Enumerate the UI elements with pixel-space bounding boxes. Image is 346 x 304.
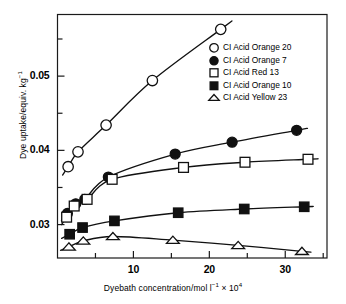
series-2: [62, 159, 318, 225]
series-4: [61, 236, 311, 252]
legend-item-label: CI Acid Orange 7: [221, 54, 287, 67]
series-3: [62, 206, 314, 238]
y-tick-label: 0.05: [6, 69, 50, 81]
legend-item: CI Acid Orange 10: [207, 79, 291, 92]
x-tick-label: 10: [118, 263, 148, 275]
open-circle-icon: [207, 41, 221, 54]
open-triangle-icon: [207, 91, 221, 104]
x-axis-label-exponent-1: −1: [212, 281, 219, 288]
legend-item-label: CI Acid Orange 10: [221, 79, 291, 92]
x-axis-label: Dyebath concentration/mol l−1 × 104: [0, 283, 346, 293]
chart-legend: CI Acid Orange 20CI Acid Orange 7CI Acid…: [207, 41, 291, 104]
legend-item: CI Acid Red 13: [207, 66, 291, 79]
x-tick-label: 30: [270, 263, 300, 275]
series-markers-4: [62, 232, 308, 254]
legend-item-label: CI Acid Orange 20: [221, 41, 291, 54]
x-axis-label-exponent-2: 4: [239, 281, 243, 288]
y-tick-label: 0.03: [6, 218, 50, 230]
y-axis-label: Dye uptake/equiv. kg−1: [18, 45, 28, 185]
series-1: [61, 128, 307, 220]
figure-container: Dye uptake/equiv. kg−1 Dyebath concentra…: [0, 0, 346, 304]
filled-circle-icon: [207, 54, 221, 67]
series-markers-0: [63, 24, 226, 172]
open-square-icon: [207, 66, 221, 79]
legend-item-label: CI Acid Yellow 23: [221, 91, 287, 104]
filled-square-icon: [207, 79, 221, 92]
chart-plot-area: [0, 0, 346, 304]
x-tick-label: 20: [194, 263, 224, 275]
y-tick-label: 0.04: [6, 143, 50, 155]
legend-item: CI Acid Yellow 23: [207, 91, 291, 104]
x-axis-label-text: Dyebath concentration/mol l: [104, 283, 212, 293]
legend-item: CI Acid Orange 20: [207, 41, 291, 54]
legend-item: CI Acid Orange 7: [207, 54, 291, 67]
x-axis-label-multiplier: × 10: [219, 283, 239, 293]
legend-item-label: CI Acid Red 13: [221, 66, 279, 79]
